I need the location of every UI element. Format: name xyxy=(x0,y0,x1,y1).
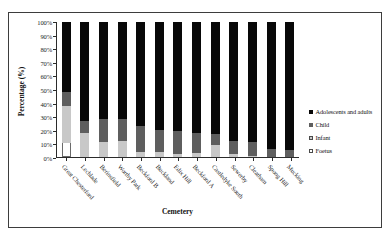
stacked-bar xyxy=(62,22,71,157)
bar-column xyxy=(262,22,281,157)
x-axis-title: Cemetery xyxy=(56,207,299,216)
legend-label: Adolescents and adults xyxy=(316,108,373,115)
y-tick-mark xyxy=(53,90,56,91)
bar-segment xyxy=(99,142,108,157)
stacked-bar xyxy=(136,22,145,157)
stacked-bar xyxy=(267,22,276,157)
bar-segment xyxy=(99,119,108,142)
bar-column xyxy=(113,22,132,157)
stacked-bar xyxy=(285,22,294,157)
bar-segment xyxy=(136,126,145,152)
bar-segment xyxy=(248,156,257,157)
x-tick-mark xyxy=(94,158,113,162)
bar-segment xyxy=(229,154,238,157)
y-tick-mark xyxy=(53,158,56,159)
legend-swatch-icon xyxy=(309,136,313,140)
bar-segment xyxy=(229,141,238,155)
plot-area: 0%10%20%30%40%50%60%70%80%90%100% xyxy=(56,22,299,158)
bar-segment xyxy=(192,133,201,153)
bar-segment xyxy=(80,22,89,121)
legend-swatch-icon xyxy=(309,110,313,114)
x-tick-mark xyxy=(188,158,207,162)
legend-swatch-icon xyxy=(309,149,313,153)
bar-segment xyxy=(80,133,89,157)
bar-segment xyxy=(248,142,257,156)
bar-segment xyxy=(118,22,127,119)
bar-column xyxy=(224,22,243,157)
stacked-bar xyxy=(173,22,182,157)
stacked-bar xyxy=(155,22,164,157)
bar-column xyxy=(150,22,169,157)
bar-segment xyxy=(118,119,127,141)
bar-segment xyxy=(173,22,182,131)
stacked-bar xyxy=(80,22,89,157)
x-tick-mark xyxy=(76,158,95,162)
stacked-bar xyxy=(99,22,108,157)
bar-column xyxy=(94,22,113,157)
chart-figure: Percentage (%) 0%10%20%30%40%50%60%70%80… xyxy=(8,12,382,228)
x-tick-mark xyxy=(263,158,282,162)
x-axis-ticks xyxy=(57,158,300,162)
bar-column xyxy=(76,22,95,157)
bar-column xyxy=(131,22,150,157)
bar-segment xyxy=(192,153,201,157)
y-tick-mark xyxy=(53,49,56,50)
bar-segment xyxy=(136,22,145,126)
bar-segment xyxy=(285,22,294,150)
x-tick-mark xyxy=(169,158,188,162)
bar-segment xyxy=(155,130,164,152)
legend-label: Child xyxy=(316,121,330,128)
bar-segment xyxy=(267,149,276,157)
bar-segment xyxy=(136,152,145,157)
x-tick-mark xyxy=(281,158,300,162)
legend-item: Adolescents and adults xyxy=(309,105,377,118)
y-tick-mark xyxy=(53,76,56,77)
stacked-bar xyxy=(229,22,238,157)
bar-segment xyxy=(192,22,201,133)
bar-column xyxy=(169,22,188,157)
bar-segment xyxy=(211,134,220,145)
legend-item: Foetus xyxy=(309,144,377,157)
y-tick-mark xyxy=(53,36,56,37)
x-tick-mark xyxy=(57,158,76,162)
bar-column xyxy=(187,22,206,157)
legend-label: Infant xyxy=(316,134,331,141)
y-tick-mark xyxy=(53,22,56,23)
bar-segment xyxy=(62,106,71,144)
legend-item: Infant xyxy=(309,131,377,144)
bar-segment xyxy=(155,152,164,157)
y-tick-mark xyxy=(53,117,56,118)
y-tick-mark xyxy=(53,63,56,64)
bar-segment xyxy=(62,22,71,92)
bar-segment xyxy=(99,22,108,119)
bar-segment xyxy=(62,92,71,106)
x-tick-mark xyxy=(150,158,169,162)
bar-segment xyxy=(118,141,127,157)
bar-segment xyxy=(285,150,294,157)
stacked-bar xyxy=(211,22,220,157)
bar-segment xyxy=(211,145,220,157)
bar-segment xyxy=(80,121,89,133)
y-axis-title: Percentage (%) xyxy=(15,45,29,137)
stacked-bar xyxy=(118,22,127,157)
y-tick-mark xyxy=(53,104,56,105)
x-tick-mark xyxy=(244,158,263,162)
y-tick-mark xyxy=(53,131,56,132)
x-tick-mark xyxy=(225,158,244,162)
bar-group xyxy=(57,22,299,157)
x-tick-label: Mucking xyxy=(285,163,305,184)
bar-column xyxy=(57,22,76,157)
y-tick-mark xyxy=(53,144,56,145)
bar-column xyxy=(243,22,262,157)
x-tick-mark xyxy=(207,158,226,162)
bar-segment xyxy=(173,131,182,154)
legend-swatch-icon xyxy=(309,123,313,127)
legend-item: Child xyxy=(309,118,377,131)
bar-segment xyxy=(267,22,276,149)
x-tick-mark xyxy=(132,158,151,162)
bar-segment xyxy=(248,22,257,142)
bar-segment xyxy=(155,22,164,130)
legend-label: Foetus xyxy=(316,147,332,154)
bar-column xyxy=(206,22,225,157)
bar-column xyxy=(280,22,299,157)
